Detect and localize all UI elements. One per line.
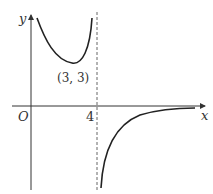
asymptote-label: 4: [86, 109, 94, 124]
y-axis-label: y: [18, 11, 27, 26]
minimum-point-label: (3, 3): [57, 71, 89, 85]
curve-right-branch: [101, 108, 195, 188]
origin-label: O: [18, 109, 29, 124]
x-axis-label: x: [201, 108, 209, 123]
curve-left-branch: [37, 18, 92, 63]
graph: y x O 4 (3, 3): [0, 0, 213, 194]
